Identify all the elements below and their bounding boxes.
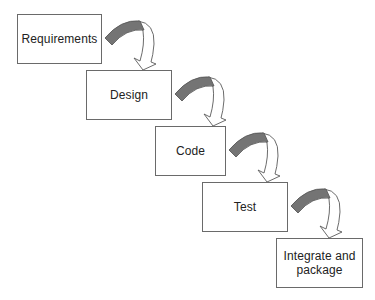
- arrow-band-icon: [291, 189, 330, 213]
- stage-box-integrate-and-package: Integrate and package: [276, 238, 363, 288]
- stage-label: Code: [176, 144, 205, 158]
- stage-label: Integrate and package: [283, 249, 355, 277]
- stage-box-code: Code: [155, 126, 226, 176]
- stage-box-design: Design: [86, 70, 172, 120]
- stage-box-requirements: Requirements: [17, 14, 102, 64]
- stage-label: Requirements: [22, 32, 98, 46]
- waterfall-diagram: Requirements Design Code Test Integrate …: [0, 0, 375, 300]
- stage-box-test: Test: [202, 182, 288, 232]
- arrow-band-icon: [229, 133, 268, 157]
- stage-label: Design: [110, 88, 148, 102]
- arrow-test-to-integrate: [291, 189, 342, 238]
- arrow-code-to-test: [229, 133, 280, 182]
- arrow-design-to-code: [175, 77, 226, 126]
- arrow-band-icon: [105, 21, 144, 45]
- stage-label: Test: [234, 200, 256, 214]
- arrow-requirements-to-design: [105, 21, 156, 70]
- arrow-band-icon: [175, 77, 214, 101]
